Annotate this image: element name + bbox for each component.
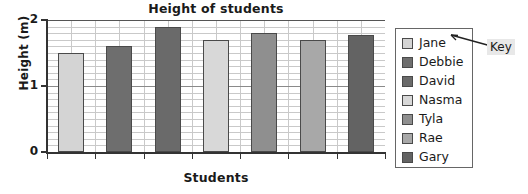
legend-swatch-icon — [402, 57, 413, 68]
legend-item-tyla[interactable]: Tyla — [402, 110, 472, 129]
key-annotation-label: Key — [487, 39, 515, 55]
legend-label: Rae — [419, 132, 443, 145]
y-tick-mark — [41, 85, 47, 87]
chart-title: Height of students — [47, 1, 385, 16]
legend-label: Debbie — [419, 56, 463, 69]
legend-label: Jane — [419, 37, 446, 50]
bar-tyla — [251, 33, 277, 152]
y-tick-label: 2 — [24, 13, 38, 25]
plot-area — [47, 20, 385, 152]
legend-swatch-icon — [402, 152, 413, 163]
bar-series — [47, 20, 385, 152]
x-tick-mark — [240, 154, 241, 159]
y-tick-mark — [41, 19, 47, 21]
legend-label: Nasma — [419, 94, 462, 107]
legend-swatch-icon — [402, 76, 413, 87]
bar-gary — [348, 35, 374, 152]
y-tick-label-wrapper: 1 — [24, 79, 38, 91]
bar-debbie — [106, 46, 132, 152]
legend-label: Gary — [419, 151, 449, 164]
legend-item-david[interactable]: David — [402, 72, 472, 91]
bar-jane — [58, 53, 84, 152]
legend-label: David — [419, 75, 455, 88]
x-tick-mark — [95, 154, 96, 159]
legend-swatch-icon — [402, 114, 413, 125]
x-axis-line — [46, 152, 386, 154]
x-tick-mark — [385, 154, 386, 159]
y-tick-label: 0 — [24, 145, 38, 157]
bar-nasma — [203, 40, 229, 152]
x-tick-mark — [337, 154, 338, 159]
x-axis-title: Students — [47, 170, 385, 185]
y-tick-mark — [41, 151, 47, 153]
legend-label: Tyla — [419, 113, 443, 126]
x-tick-mark — [47, 154, 48, 159]
legend-item-gary[interactable]: Gary — [402, 148, 472, 167]
legend-swatch-icon — [402, 95, 413, 106]
y-tick-label-wrapper: 0 — [24, 145, 38, 157]
x-tick-mark — [144, 154, 145, 159]
legend-swatch-icon — [402, 38, 413, 49]
legend-item-rae[interactable]: Rae — [402, 129, 472, 148]
y-tick-label: 1 — [24, 79, 38, 91]
x-tick-mark — [192, 154, 193, 159]
bar-david — [155, 27, 181, 152]
legend-item-nasma[interactable]: Nasma — [402, 91, 472, 110]
legend-item-jane[interactable]: Jane — [402, 34, 472, 53]
legend-swatch-icon — [402, 133, 413, 144]
bar-rae — [300, 40, 326, 152]
y-tick-label-wrapper: 2 — [24, 13, 38, 25]
legend-item-debbie[interactable]: Debbie — [402, 53, 472, 72]
x-tick-mark — [288, 154, 289, 159]
bar-chart: Height of students Height (m) 012 Studen… — [0, 0, 528, 194]
legend: JaneDebbieDavidNasmaTylaRaeGary — [395, 28, 473, 168]
